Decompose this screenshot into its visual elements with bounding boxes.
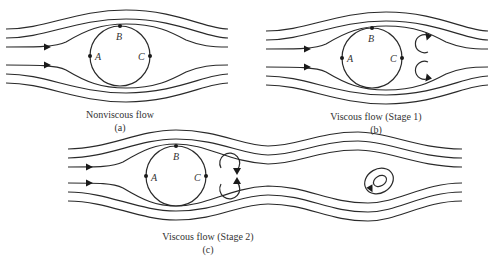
panel-a-sublabel: (a) <box>114 122 125 134</box>
panel-a: B A C Nonviscous flow (a) <box>6 10 228 134</box>
point-c-label: C <box>390 53 397 64</box>
streamlines <box>68 130 462 221</box>
flow-diagram: B A C Nonviscous flow (a) B A C Viscous … <box>0 0 502 262</box>
point-c-label: C <box>194 172 201 183</box>
point-b-label: B <box>116 31 122 42</box>
panel-b-caption: Viscous flow (Stage 1) <box>330 111 421 123</box>
panel-c-caption: Viscous flow (Stage 2) <box>162 231 253 243</box>
eddy-pair <box>220 153 241 199</box>
panel-b: B A C Viscous flow (Stage 1) (b) <box>266 12 488 136</box>
point-a-label: A <box>346 53 354 64</box>
panel-c: B A C Viscous flow (Stage 2) (c) <box>68 130 462 256</box>
shed-vortex <box>360 163 398 199</box>
streamlines <box>266 12 488 104</box>
panel-c-sublabel: (c) <box>202 244 213 256</box>
point-c-label: C <box>138 51 145 62</box>
panel-a-caption: Nonviscous flow <box>86 109 155 120</box>
eddy-pair <box>415 32 432 83</box>
point-a-label: A <box>94 51 102 62</box>
point-a-label: A <box>150 172 158 183</box>
point-b-label: B <box>368 33 374 44</box>
streamlines <box>6 10 228 102</box>
point-b-label: B <box>173 151 179 162</box>
